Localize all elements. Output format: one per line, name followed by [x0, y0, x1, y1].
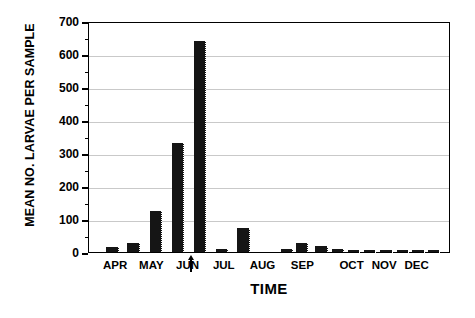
bar: [216, 249, 228, 252]
y-axis-tick-label: 400: [59, 115, 79, 127]
x-axis-tick-label-jul: JUL: [213, 258, 235, 272]
bar: [364, 250, 376, 252]
x-axis-tick-label-dec: DEC: [405, 258, 429, 272]
bar: [237, 228, 249, 252]
bar: [315, 246, 327, 252]
x-axis-tick-label-sep: SEP: [291, 258, 314, 272]
y-axis-tick-label: 600: [59, 49, 79, 61]
bar: [397, 250, 409, 252]
bar: [172, 143, 184, 252]
x-axis-tick-label-apr: APR: [103, 258, 127, 272]
x-axis-tick-label-aug: AUG: [250, 258, 276, 272]
x-axis-label: TIME: [88, 280, 450, 297]
bar: [194, 41, 206, 252]
y-axis-tick-label: 200: [59, 181, 79, 193]
y-axis-ticks: 0100200300400500600700: [0, 0, 88, 275]
bar: [281, 249, 293, 252]
x-axis-tick-label-oct: OCT: [339, 258, 363, 272]
plot-area: [88, 22, 450, 253]
bar: [127, 243, 139, 252]
x-axis-tick-label-may: MAY: [139, 258, 164, 272]
y-axis-tick-major: [82, 253, 88, 255]
y-axis-tick-label: 0: [72, 247, 79, 259]
y-axis-tick-label: 300: [59, 148, 79, 160]
bar: [332, 249, 344, 252]
sampling-arrow-annotation: [186, 255, 195, 272]
bar: [348, 250, 360, 252]
bar: [380, 250, 392, 252]
bar: [296, 243, 308, 252]
bar: [150, 211, 162, 252]
y-axis-tick-label: 700: [59, 16, 79, 28]
arrow-shaft-icon: [190, 258, 191, 272]
bar-series: [89, 23, 449, 252]
y-axis-tick-label: 100: [59, 214, 79, 226]
y-axis-tick-label: 500: [59, 82, 79, 94]
x-axis-tick-labels: APRMAYJUNJULAUGSEPOCTNOVDEC: [88, 258, 450, 276]
bar: [428, 250, 440, 252]
bar: [106, 247, 118, 252]
bar: [412, 250, 424, 252]
chart-figure: MEAN NO. LARVAE PER SAMPLE 0100200300400…: [0, 0, 475, 318]
x-axis-tick-label-nov: NOV: [372, 258, 397, 272]
